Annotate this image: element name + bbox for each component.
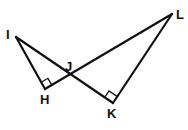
point-label-i: I (6, 28, 10, 41)
geometry-diagram: I H J K L (0, 0, 188, 130)
point-label-k: K (107, 107, 116, 120)
diagram-lines (0, 0, 188, 130)
right-angle-mark-k (105, 91, 118, 97)
point-label-l: L (176, 8, 184, 21)
segment-kl (113, 14, 172, 103)
segment-hl (45, 14, 172, 89)
segment-ih (16, 37, 45, 89)
point-label-h: H (40, 93, 49, 106)
point-label-j: J (65, 60, 72, 73)
